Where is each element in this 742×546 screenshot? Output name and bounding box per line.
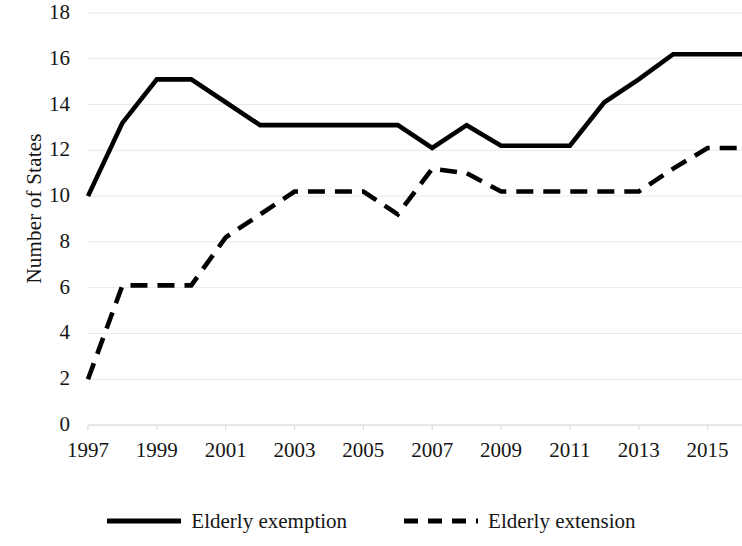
- chart-legend: Elderly exemptionElderly extension: [0, 496, 742, 546]
- x-tick-label: 2001: [191, 440, 261, 461]
- solid-line-swatch-icon: [106, 516, 182, 526]
- x-tick-label: 2009: [466, 440, 536, 461]
- data-series-group: [88, 54, 742, 379]
- x-tick-label: 2005: [328, 440, 398, 461]
- x-tick-label: 2013: [604, 440, 674, 461]
- line-chart-figure: Number of States 181614121086420 1997199…: [0, 0, 742, 546]
- x-tick-label: 2007: [397, 440, 467, 461]
- plot-area: [0, 0, 742, 440]
- legend-item-2[interactable]: Elderly extension: [403, 511, 636, 532]
- x-tick-label: 2015: [673, 440, 742, 461]
- x-tick-label: 1999: [122, 440, 192, 461]
- x-axis-line: [88, 425, 742, 430]
- legend-label: Elderly exemption: [191, 511, 347, 532]
- legend-item-1[interactable]: Elderly exemption: [106, 511, 347, 532]
- x-tick-label: 2003: [260, 440, 330, 461]
- x-axis-tick-labels: 1997199920012003200520072009201120132015: [0, 440, 742, 480]
- x-tick-label: 1997: [53, 440, 123, 461]
- x-tick-label: 2011: [535, 440, 605, 461]
- series-line-2: [88, 148, 742, 379]
- dashed-line-swatch-icon: [403, 516, 479, 526]
- series-line-1: [88, 54, 742, 196]
- legend-label: Elderly extension: [488, 511, 636, 532]
